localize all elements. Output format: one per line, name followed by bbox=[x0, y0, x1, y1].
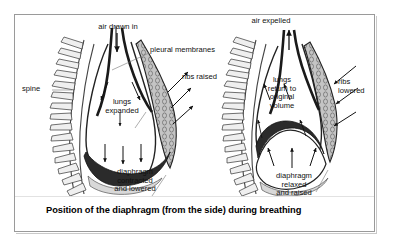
label-lungs-return: lungs return to original volume bbox=[258, 76, 306, 110]
figure-caption: Position of the diaphragm (from the side… bbox=[46, 205, 346, 215]
label-diaphragm-relaxed: diaphragm relaxed and raised bbox=[262, 172, 326, 198]
label-diaphragm-contracted: diaphragm contracted and lowered bbox=[104, 168, 166, 194]
caption-divider bbox=[15, 196, 374, 197]
label-air-drawn-in: air drawn in bbox=[86, 23, 150, 32]
figure-root: air drawn in pleural membranes spine rib… bbox=[0, 0, 393, 251]
label-pleural-membranes: pleural membranes bbox=[150, 46, 234, 55]
label-lungs-expanded: lungs expanded bbox=[98, 98, 146, 115]
label-ribs-raised: ribs raised bbox=[182, 73, 228, 82]
label-spine: spine bbox=[22, 85, 54, 94]
label-air-expelled: air expelled bbox=[238, 17, 304, 26]
label-ribs-lowered: ribs lowered bbox=[338, 78, 382, 95]
